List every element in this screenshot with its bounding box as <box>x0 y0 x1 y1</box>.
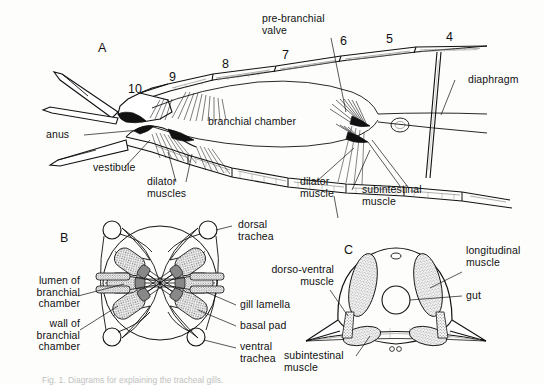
label-subintestinal-muscle-c: subintestinal muscle <box>284 350 344 373</box>
label-anus: anus <box>46 129 69 141</box>
label-diaphragm: diaphragm <box>468 74 519 86</box>
segment-number-10: 10 <box>128 82 142 96</box>
label-vestibule: vestibule <box>93 162 135 174</box>
segment-number-6: 6 <box>340 34 347 48</box>
label-ventral-trachea: ventral trachea <box>240 341 276 364</box>
label-dorsal-trachea: dorsal trachea <box>238 219 274 242</box>
panel-a-letter: A <box>98 41 106 55</box>
figure-caption: Fig. 1. Diagrams for explaining the trac… <box>42 375 223 385</box>
label-gut: gut <box>466 290 481 302</box>
panel-b-letter: B <box>60 231 68 245</box>
label-dilator-muscles: dilator muscles <box>147 176 186 199</box>
label-pre-branchial-valve: pre-branchial valve <box>262 13 325 36</box>
label-longitudinal-muscle: longitudinal muscle <box>466 245 520 268</box>
label-subintestinal-muscle-a: subintestinal muscle <box>362 184 422 207</box>
label-basal-pad: basal pad <box>240 320 286 332</box>
label-lumen-of-branchial-chamber: lumen of branchial chamber <box>2 275 80 310</box>
segment-number-4: 4 <box>446 30 453 44</box>
label-branchial-chamber: branchial chamber <box>208 116 296 128</box>
label-dilator-muscle-a: dilator muscle <box>300 176 334 199</box>
panel-b-artwork <box>96 221 224 346</box>
label-wall-of-branchial-chamber: wall of branchial chamber <box>2 318 80 353</box>
segment-number-5: 5 <box>386 32 393 46</box>
segment-number-8: 8 <box>222 57 229 71</box>
label-dorso-ventral-muscle: dorso-ventral muscle <box>262 264 334 287</box>
figure-root: A 10 9 8 7 6 5 4 pre-branchial valve dia… <box>0 0 544 385</box>
segment-number-7: 7 <box>282 48 289 62</box>
panel-c-letter: C <box>344 243 353 257</box>
segment-number-9: 9 <box>169 70 176 84</box>
label-gill-lamella: gill lamella <box>240 299 290 311</box>
